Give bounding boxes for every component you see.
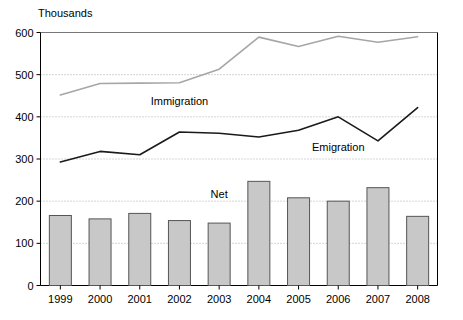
bar-net-2000 (89, 219, 111, 286)
x-tick-label-1999: 1999 (48, 293, 72, 305)
x-tick-label-2008: 2008 (405, 293, 429, 305)
bar-net-2003 (208, 223, 230, 285)
y-tick-label-400: 400 (15, 111, 33, 123)
x-tick-label-2006: 2006 (326, 293, 350, 305)
emigration-polyline (60, 108, 417, 162)
annotation-net: Net (211, 188, 228, 200)
y-axis-ticks: 0100200300400500600 (15, 27, 40, 292)
immigration-polyline (60, 36, 417, 95)
x-tick-label-2007: 2007 (366, 293, 390, 305)
y-tick-label-100: 100 (15, 237, 33, 249)
bar-net-2008 (407, 216, 429, 285)
bar-series-net (49, 181, 428, 285)
x-tick-label-2002: 2002 (167, 293, 191, 305)
chart-plot-area: 0100200300400500600 19992000200120022003… (0, 0, 463, 320)
x-tick-label-2003: 2003 (207, 293, 231, 305)
line-series-immigration (60, 36, 417, 95)
x-axis-ticks: 1999200020012002200320042005200620072008 (48, 286, 430, 305)
migration-chart: Thousands 0100200300400500600 1999200020… (0, 0, 463, 320)
bar-net-2001 (129, 213, 151, 285)
x-tick-label-2000: 2000 (88, 293, 112, 305)
annotation-immigration: Immigration (151, 95, 208, 107)
bar-net-1999 (49, 216, 71, 286)
y-tick-label-500: 500 (15, 69, 33, 81)
bar-net-2005 (288, 198, 310, 286)
bar-net-2002 (168, 221, 190, 286)
x-tick-label-2005: 2005 (286, 293, 310, 305)
x-tick-label-2001: 2001 (128, 293, 152, 305)
x-tick-label-2004: 2004 (247, 293, 271, 305)
bar-net-2006 (327, 201, 349, 285)
y-tick-label-300: 300 (15, 153, 33, 165)
y-tick-label-0: 0 (27, 280, 33, 292)
line-series-emigration (60, 108, 417, 162)
bar-net-2007 (367, 188, 389, 286)
bar-net-2004 (248, 181, 270, 285)
y-tick-label-600: 600 (15, 27, 33, 39)
annotation-emigration: Emigration (312, 141, 365, 153)
y-tick-label-200: 200 (15, 195, 33, 207)
